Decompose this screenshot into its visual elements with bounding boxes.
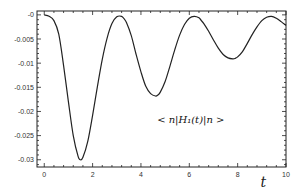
series-curve bbox=[44, 15, 286, 160]
x-tick-label: 10 bbox=[282, 171, 290, 178]
x-tick-label: 8 bbox=[236, 171, 240, 178]
x-tick-label: 0 bbox=[42, 171, 46, 178]
annotation-label: < n|H₁(t)|n > bbox=[157, 114, 224, 126]
x-tick-label: 2 bbox=[91, 171, 95, 178]
x-tick-label: 4 bbox=[139, 171, 143, 178]
line-chart: -0-0.005-0.01-0.015-0.02-0.025-0.03 0246… bbox=[0, 0, 301, 192]
y-tick-labels: -0-0.005-0.01-0.015-0.02-0.025-0.03 bbox=[14, 11, 34, 163]
y-tick-label: -0.03 bbox=[18, 156, 34, 163]
y-tick-label: -0.005 bbox=[14, 36, 34, 43]
y-tick-label: -0.02 bbox=[18, 108, 34, 115]
x-axis-label: t bbox=[261, 174, 267, 190]
x-tick-labels: 0246810 bbox=[42, 171, 290, 178]
x-tick-label: 6 bbox=[187, 171, 191, 178]
y-tick-label: -0 bbox=[28, 11, 34, 18]
y-tick-label: -0.015 bbox=[14, 84, 34, 91]
y-tick-label: -0.025 bbox=[14, 132, 34, 139]
y-tick-label: -0.01 bbox=[18, 60, 34, 67]
